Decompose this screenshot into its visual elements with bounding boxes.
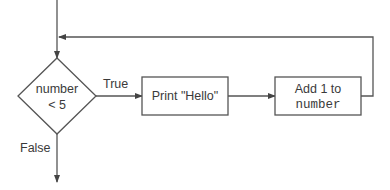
add-one-node: Add 1 to number [275,77,361,115]
add-one-text-line2: number [295,98,340,112]
decision-node: number < 5 [18,58,96,134]
false-label: False [20,141,51,155]
decision-text-line2: < 5 [48,98,66,112]
print-hello-node: Print "Hello" [142,77,228,115]
print-hello-text: Print "Hello" [152,89,219,103]
add-one-text-line1: Add 1 to [295,82,342,96]
decision-text-line1: number [36,82,78,96]
true-label: True [103,77,128,91]
flowchart-diagram: number < 5 True Print "Hello" Add 1 to n… [0,0,390,190]
